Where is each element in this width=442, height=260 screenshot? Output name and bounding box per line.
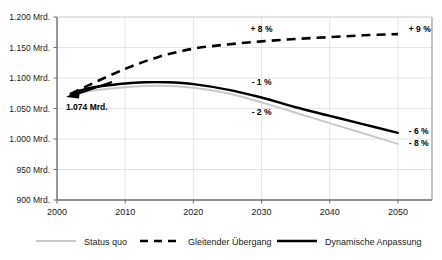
x-axis: 200020102020203020402050 (47, 200, 408, 217)
x-tick-label: 2050 (388, 207, 408, 217)
y-tick-label: 900 Mrd. (16, 195, 50, 205)
y-tick-label: 950 Mrd. (16, 165, 50, 175)
annotation--6: - 6 % (409, 126, 429, 136)
x-tick-label: 2020 (183, 207, 203, 217)
annotation--1: - 1 % (252, 77, 272, 87)
legend-label-3: Dynamische Anpassung (325, 237, 422, 247)
y-axis: 900 Mrd.950 Mrd.1.000 Mrd.1.050 Mrd.1.10… (9, 12, 57, 205)
y-tick-label: 1.050 Mrd. (9, 104, 50, 114)
x-tick-label: 2000 (47, 207, 67, 217)
y-tick-label: 1.000 Mrd. (9, 134, 50, 144)
start-value-label: 1.074 Mrd. (66, 102, 108, 112)
line-chart: 900 Mrd.950 Mrd.1.000 Mrd.1.050 Mrd.1.10… (0, 0, 442, 260)
chart-legend: Status quoGleitender ÜbergangDynamische … (36, 237, 422, 247)
annotation-+9: + 9 % (409, 24, 431, 34)
legend-label-1: Status quo (84, 237, 127, 247)
annotation--8: - 8 % (409, 138, 429, 148)
y-tick-label: 1.150 Mrd. (9, 43, 50, 53)
legend-label-2: Gleitender Übergang (188, 237, 272, 247)
chart-container: 900 Mrd.950 Mrd.1.000 Mrd.1.050 Mrd.1.10… (0, 0, 442, 260)
annotation-+8: + 8 % (251, 24, 273, 34)
x-tick-label: 2030 (252, 207, 272, 217)
y-tick-label: 1.100 Mrd. (9, 73, 50, 83)
annotation--2: - 2 % (252, 107, 272, 117)
y-tick-label: 1.200 Mrd. (9, 12, 50, 22)
x-tick-label: 2010 (115, 207, 135, 217)
x-tick-label: 2040 (320, 207, 340, 217)
